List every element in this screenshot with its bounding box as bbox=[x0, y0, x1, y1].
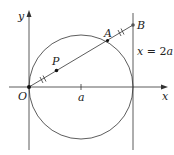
label-line-a: a bbox=[166, 45, 173, 58]
label-tick-a: a bbox=[78, 91, 85, 104]
label-line-equation: x = 2a bbox=[137, 45, 173, 58]
label-point-B: B bbox=[136, 19, 145, 32]
label-point-A: A bbox=[103, 27, 112, 40]
point-P bbox=[55, 69, 59, 73]
label-origin: O bbox=[18, 90, 27, 103]
x-axis-arrow-icon bbox=[161, 85, 168, 90]
label-point-P: P bbox=[51, 55, 60, 68]
point-O bbox=[27, 85, 31, 89]
point-B bbox=[131, 23, 135, 27]
label-line-eq: = 2 bbox=[143, 45, 166, 58]
equal-marks-OP bbox=[40, 76, 46, 84]
y-axis-arrow-icon bbox=[27, 10, 32, 17]
diagram-canvas: y x O a P A B x = 2a bbox=[0, 0, 174, 155]
label-y-axis: y bbox=[17, 10, 25, 23]
segment-OB bbox=[29, 25, 133, 87]
label-x-axis: x bbox=[162, 90, 169, 103]
